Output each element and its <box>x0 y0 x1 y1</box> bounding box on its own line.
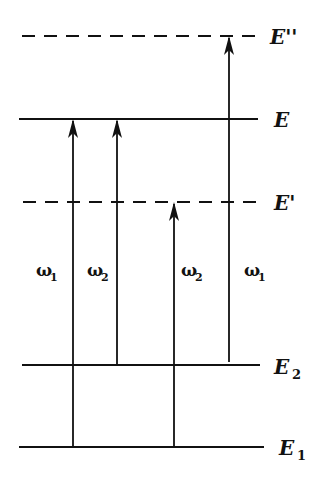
label-E-prime: E' <box>273 191 295 215</box>
omega-subscript: 2 <box>101 271 109 284</box>
omega-subscript: 1 <box>50 271 58 284</box>
label-omega2-right: ω 2 <box>181 260 203 284</box>
transition-arrow-E1-to-E-prime-omega2 <box>169 202 179 447</box>
label-omega2-left: ω 2 <box>87 260 109 284</box>
transition-arrow-E1-to-E-omega1 <box>68 119 78 447</box>
label-E1-subscript: 1 <box>297 448 306 463</box>
label-E2-main: E <box>273 355 290 379</box>
label-E1: E 1 <box>278 436 306 463</box>
label-omega1-left: ω 1 <box>36 260 58 284</box>
label-E1-main: E <box>278 436 295 460</box>
label-E: E <box>273 108 290 132</box>
label-omega1-right: ω 1 <box>244 260 266 284</box>
label-E2-subscript: 2 <box>292 367 301 382</box>
omega-subscript: 2 <box>195 271 203 284</box>
energy-level-diagram: E'' E E' E 2 E 1 ω 1 ω 2 ω 2 ω 1 <box>0 0 320 478</box>
transition-arrow-E2-to-E-double-prime-omega1 <box>224 36 234 362</box>
label-E2: E 2 <box>273 355 301 382</box>
omega-subscript: 1 <box>258 271 266 284</box>
label-E-double-prime: E'' <box>269 25 298 49</box>
transition-arrow-E2-to-E-omega2 <box>112 119 122 365</box>
